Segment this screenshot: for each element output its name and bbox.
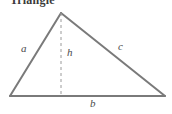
label-side-c: c xyxy=(118,41,123,52)
triangle-side-c-line xyxy=(61,13,165,96)
label-side-a: a xyxy=(21,43,27,54)
label-side-b: b xyxy=(90,98,96,109)
triangle-side-a-line xyxy=(10,13,61,96)
triangle-diagram-svg xyxy=(0,0,172,114)
triangle-figure: Triangle a h c b xyxy=(0,0,172,114)
label-height-h: h xyxy=(67,47,73,58)
